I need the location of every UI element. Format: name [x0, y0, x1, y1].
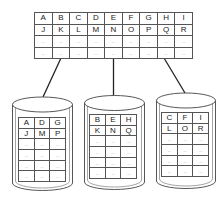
table-cell: G	[140, 13, 158, 25]
table-cell: F	[177, 113, 193, 124]
table-cell: I	[193, 113, 209, 124]
table-row: .. .. ..	[162, 155, 209, 166]
table-cell: ..	[162, 166, 178, 177]
table-row: .. .. ..	[19, 160, 66, 171]
table-cell: I	[175, 13, 193, 25]
table-cell: ..	[122, 47, 140, 59]
table-row: .. .. .. .. .. .. .. .. ..	[35, 47, 193, 59]
table-cell: ..	[105, 168, 121, 179]
table-cell: D	[34, 118, 50, 129]
table-cell: ..	[90, 157, 106, 168]
table-cell: J	[19, 128, 35, 139]
table-row: .. .. ..	[19, 139, 66, 150]
table-cell: ..	[19, 139, 35, 150]
table-cell: R	[193, 123, 209, 134]
table-cell: ..	[34, 139, 50, 150]
table-row: .. .. ..	[90, 147, 137, 158]
table-cell: C	[162, 113, 178, 124]
table-cell: ..	[52, 47, 70, 59]
table-row: .. .. ..	[162, 145, 209, 156]
table-cell: ..	[105, 147, 121, 158]
table-cell: ..	[105, 157, 121, 168]
table-cell: ..	[121, 157, 137, 168]
table-cell: ..	[175, 36, 193, 48]
source-table: A B C D E F G H I J K L M N O P Q R .. .…	[34, 12, 193, 59]
table-cell: ..	[105, 47, 123, 59]
shard-1-table: A D G J M P .. .. .. .. .. .. .. .. .. .…	[18, 117, 66, 182]
table-cell: J	[35, 24, 53, 36]
table-row: J M P	[19, 128, 66, 139]
table-cell: ..	[34, 171, 50, 182]
table-cell: ..	[50, 150, 66, 161]
table-row: .. .. ..	[162, 134, 209, 145]
table-cell: E	[105, 13, 123, 25]
table-cell: D	[87, 13, 105, 25]
table-cell: ..	[35, 47, 53, 59]
table-cell: ..	[35, 36, 53, 48]
table-cell: ..	[19, 160, 35, 171]
table-cell: L	[70, 24, 88, 36]
table-cell: ..	[90, 136, 106, 147]
table-cell: ..	[34, 150, 50, 161]
table-cell: ..	[19, 171, 35, 182]
table-cell: K	[90, 125, 106, 136]
table-cell: B	[52, 13, 70, 25]
table-cell: ..	[19, 150, 35, 161]
table-row: L O R	[162, 123, 209, 134]
connector-line-shard-3	[164, 58, 185, 93]
table-cell: H	[121, 115, 137, 126]
table-row: .. .. .. .. .. .. .. .. ..	[35, 36, 193, 48]
table-cell: ..	[121, 136, 137, 147]
table-row: A B C D E F G H I	[35, 13, 193, 25]
table-cell: ..	[177, 134, 193, 145]
connector-line-shard-1	[43, 58, 61, 97]
table-row: B E H	[90, 115, 137, 126]
shard-3-table: C F I L O R .. .. .. .. .. .. .. .. .. .…	[161, 112, 209, 177]
table-cell: ..	[175, 47, 193, 59]
table-cell: L	[162, 123, 178, 134]
table-cell: F	[122, 13, 140, 25]
table-cell: A	[35, 13, 53, 25]
table-cell: ..	[162, 145, 178, 156]
table-cell: N	[105, 24, 123, 36]
table-cell: R	[175, 24, 193, 36]
table-cell: N	[105, 125, 121, 136]
table-cell: H	[157, 13, 175, 25]
table-row: .. .. ..	[19, 171, 66, 182]
table-cell: ..	[70, 36, 88, 48]
table-cell: ..	[87, 36, 105, 48]
table-cell: K	[52, 24, 70, 36]
table-cell: M	[87, 24, 105, 36]
table-row: .. .. ..	[90, 168, 137, 179]
table-cell: ..	[193, 155, 209, 166]
table-cell: ..	[87, 47, 105, 59]
table-cell: C	[70, 13, 88, 25]
table-cell: ..	[162, 134, 178, 145]
table-cell: ..	[140, 36, 158, 48]
table-cell: ..	[193, 166, 209, 177]
table-cell: ..	[105, 36, 123, 48]
table-cell: O	[177, 123, 193, 134]
table-cell: ..	[34, 160, 50, 171]
table-cell: ..	[90, 147, 106, 158]
table-cell: Q	[157, 24, 175, 36]
sharding-diagram: A B C D E F G H I J K L M N O P Q R .. .…	[0, 0, 222, 203]
table-cell: ..	[157, 36, 175, 48]
shard-2-table: B E H K N Q .. .. .. .. .. .. .. .. .. .…	[89, 114, 137, 179]
table-cell: ..	[105, 136, 121, 147]
table-row: .. .. ..	[19, 150, 66, 161]
table-cell: ..	[177, 145, 193, 156]
table-cell: ..	[177, 166, 193, 177]
table-cell: ..	[70, 47, 88, 59]
table-cell: ..	[50, 139, 66, 150]
table-row: K N Q	[90, 125, 137, 136]
table-row: C F I	[162, 113, 209, 124]
table-cell: A	[19, 118, 35, 129]
table-cell: ..	[140, 47, 158, 59]
table-cell: G	[50, 118, 66, 129]
table-cell: Q	[121, 125, 137, 136]
table-cell: P	[140, 24, 158, 36]
table-cell: ..	[90, 168, 106, 179]
table-cell: ..	[157, 47, 175, 59]
table-cell: ..	[177, 155, 193, 166]
